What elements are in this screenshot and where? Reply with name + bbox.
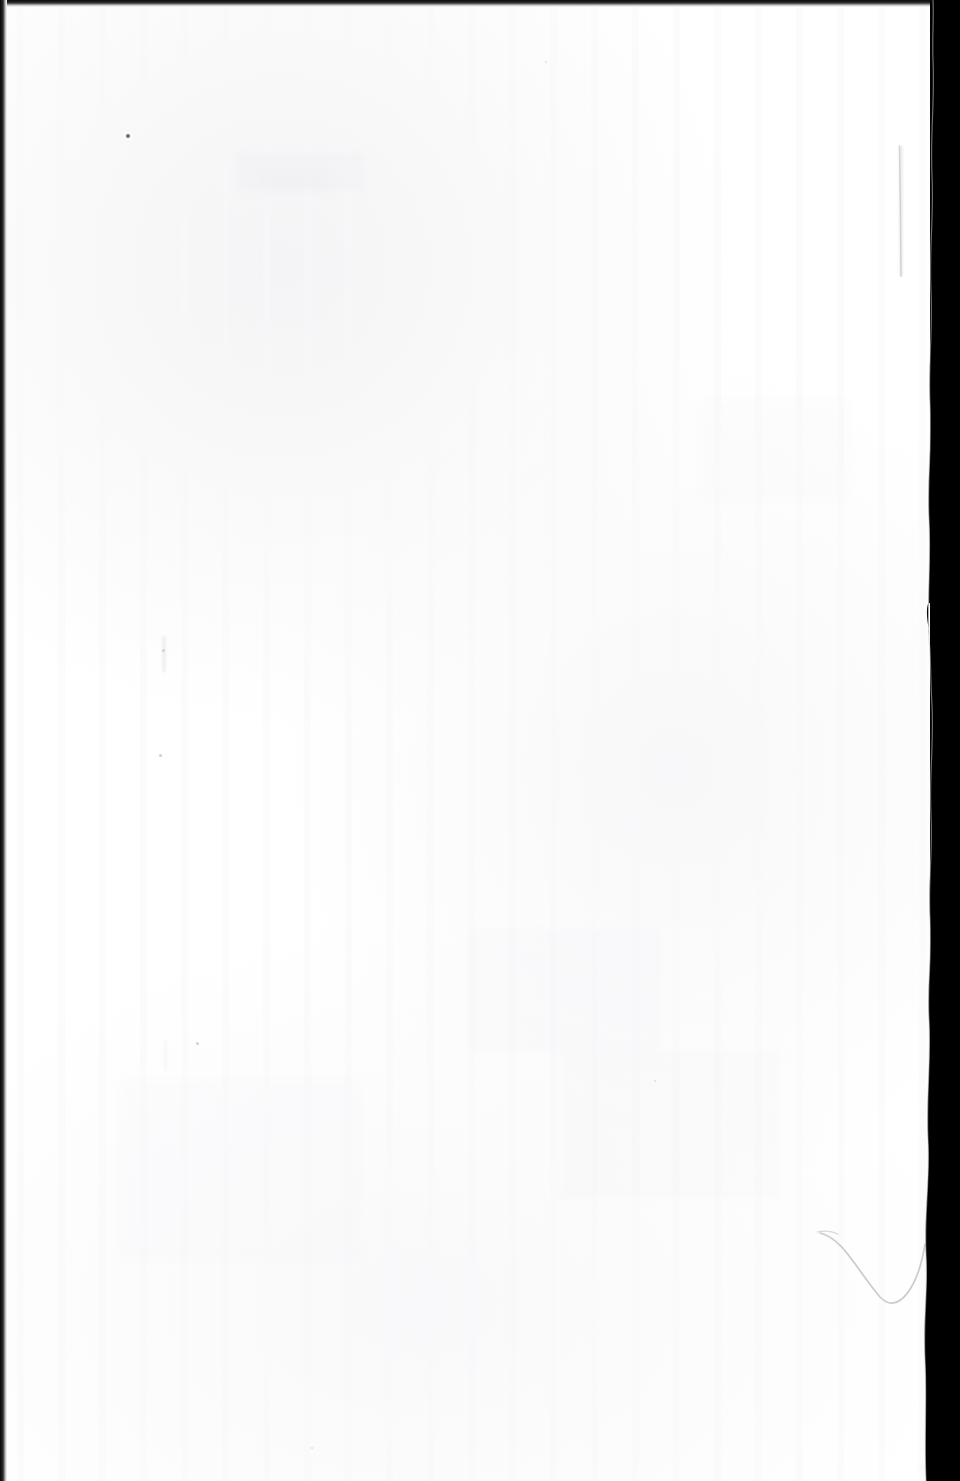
showthrough-block-3 [470,930,660,1050]
speck-left-lower [159,754,162,757]
speck-centre-top [545,61,547,63]
scanner-band-left [0,0,7,1481]
paper-sheet [0,0,938,1481]
showthrough-block-4 [560,1050,780,1200]
corner-bevel [916,1465,938,1481]
speck-upper-left [126,134,130,138]
crease-line-left [163,636,165,672]
pencil-vertical-line-icon [900,146,902,276]
speck-mid-left [162,649,165,652]
crease-line-lower-left [165,1040,166,1070]
showthrough-block-6 [700,400,850,500]
pencil-curve-tail-icon [817,1231,838,1234]
showthrough-block-5 [120,1080,360,1260]
speck-bottom-centre [311,1447,313,1449]
scanner-band-top [0,0,938,7]
speck-right-lower [654,1080,656,1082]
showthrough-block-2 [258,168,328,190]
paper-tone-layer [0,0,938,1481]
scanned-page [0,0,960,1481]
speck-left-bottom [196,1042,199,1045]
paper-grain-layer [0,0,938,1481]
pencil-marks-layer [0,0,938,1481]
crease-line-upper-right [900,146,902,276]
pencil-curve-icon [820,1233,925,1303]
showthrough-block-1 [236,152,364,192]
